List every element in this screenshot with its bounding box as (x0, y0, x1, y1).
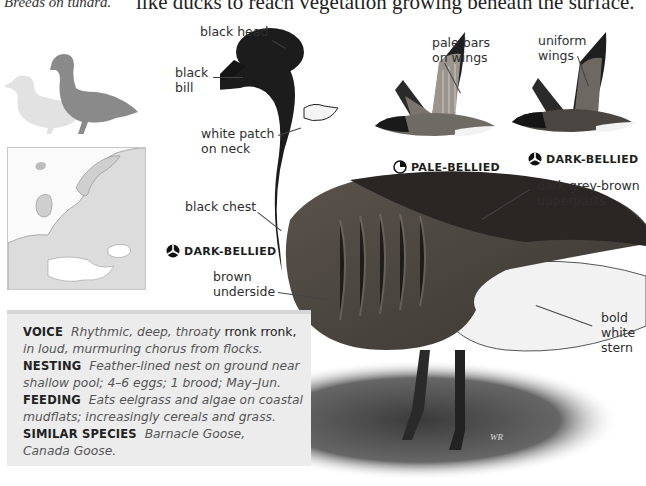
label-stern-1: bold (601, 310, 628, 325)
label-white-patch-2: on neck (201, 141, 250, 156)
nesting-key: NESTING (23, 359, 81, 373)
variant-tag-pale-bellied: PALE-BELLIED (393, 160, 500, 174)
label-brown-underside-1: brown (213, 269, 252, 284)
tri-segment-symbol-icon (166, 244, 180, 258)
voice-line-1: VOICE Rhythmic, deep, throaty rronk rron… (23, 324, 297, 341)
variant-label: PALE-BELLIED (411, 161, 500, 174)
europe-map-icon (8, 148, 146, 290)
variant-label: DARK-BELLIED (184, 245, 277, 258)
similar-line-1: SIMILAR SPECIES Barnacle Goose, (23, 426, 297, 443)
voice-text: Rhythmic, deep, throaty (71, 325, 221, 339)
voice-call: rronk rronk, (224, 325, 296, 339)
similar-text: Barnacle Goose, (145, 427, 245, 441)
half-circle-symbol-icon (393, 160, 407, 174)
label-stern-3: stern (601, 340, 633, 355)
feeding-text: Eats eelgrass and algae on coastal (89, 393, 303, 407)
label-white-patch-1: white patch (201, 126, 274, 141)
label-upperparts-1: dark grey-brown (537, 178, 640, 193)
label-black-bill-2: bill (175, 80, 193, 95)
variant-tag-dark-bellied-main: DARK-BELLIED (166, 244, 277, 258)
label-uniform-wings-1: uniform (538, 33, 586, 48)
voice-key: VOICE (23, 325, 63, 339)
nesting-line-2: shallow pool; 4–6 eggs; 1 brood; May–Jun… (23, 375, 297, 392)
page-caption-fragment: Breeds on tundra. (4, 0, 111, 11)
feeding-line-2: mudflats; increasingly cereals and grass… (23, 409, 297, 426)
tri-segment-symbol-icon (528, 152, 542, 166)
size-silhouette (4, 48, 138, 134)
feeding-line-1: FEEDING Eats eelgrass and algae on coast… (23, 392, 297, 409)
goose-duck-silhouette-icon (4, 48, 138, 134)
label-black-chest: black chest (185, 199, 256, 214)
nesting-text: Feather-lined nest on ground near (89, 359, 299, 373)
species-info-box: VOICE Rhythmic, deep, throaty rronk rron… (7, 310, 311, 466)
voice-line-2: in loud, murmuring chorus from flocks. (23, 341, 297, 358)
range-map (7, 147, 146, 290)
body-text-fragment: like ducks to reach vegetation growing b… (136, 0, 635, 15)
similar-key: SIMILAR SPECIES (23, 427, 137, 441)
feeding-key: FEEDING (23, 393, 81, 407)
label-stern-2: white (601, 325, 635, 340)
label-upperparts-2: upperparts (537, 193, 606, 208)
label-black-bill-1: black (175, 65, 208, 80)
nesting-line-1: NESTING Feather-lined nest on ground nea… (23, 358, 297, 375)
label-pale-bars-1: pale bars (432, 35, 490, 50)
variant-label: DARK-BELLIED (546, 153, 639, 166)
variant-tag-dark-bellied-flight: DARK-BELLIED (528, 152, 639, 166)
leader-line-bill (213, 77, 243, 78)
svg-text:WR: WR (490, 432, 503, 442)
label-brown-underside-2: underside (213, 284, 275, 299)
label-pale-bars-2: on wings (432, 50, 488, 65)
label-black-head: black head (200, 24, 268, 39)
similar-line-2: Canada Goose. (23, 443, 297, 460)
label-uniform-wings-2: wings (538, 48, 574, 63)
